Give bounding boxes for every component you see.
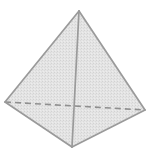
- tetrahedron-diagram: [0, 0, 154, 156]
- tetrahedron-figure: [0, 0, 154, 156]
- right-face: [72, 11, 145, 147]
